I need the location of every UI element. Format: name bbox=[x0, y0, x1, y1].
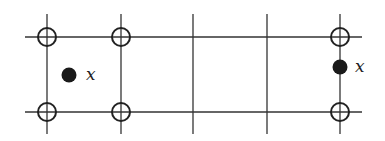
point-label: x bbox=[86, 64, 96, 84]
filled-points: xx bbox=[62, 56, 366, 84]
filled-point bbox=[333, 60, 348, 75]
lattice-diagram: xx bbox=[0, 0, 385, 141]
point-label: x bbox=[355, 56, 365, 76]
filled-point bbox=[62, 68, 77, 83]
